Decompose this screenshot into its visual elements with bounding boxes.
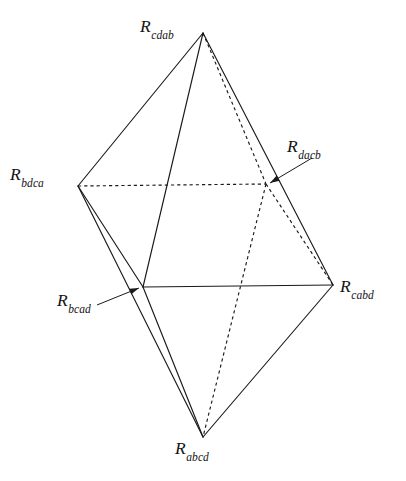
vertex-label-subscript-dacb: dacb bbox=[298, 149, 321, 161]
vertex-label-base-bcad: R bbox=[57, 290, 68, 310]
vertex-label-subscript-cabd: cabd bbox=[351, 289, 374, 301]
edge-bdca-abcd bbox=[78, 186, 203, 437]
vertex-label-cabd: Rcabd bbox=[340, 278, 374, 299]
vertex-label-subscript-bcad: bcad bbox=[68, 303, 91, 315]
edge-bdca-dacb bbox=[78, 184, 266, 186]
edge-cdab-bcad bbox=[143, 33, 203, 287]
edge-group-solid bbox=[78, 33, 333, 437]
vertex-label-bcad: Rbcad bbox=[57, 292, 91, 313]
vertex-label-dacb: Rdacb bbox=[287, 138, 321, 159]
arrow-head-bcad bbox=[129, 288, 139, 294]
edge-dacb-abcd bbox=[203, 184, 266, 437]
vertex-label-subscript-abcd: abcd bbox=[186, 451, 209, 463]
diagram-canvas: RcdabRbdcaRdacbRbcadRcabdRabcd bbox=[0, 0, 406, 481]
edge-bcad-cabd bbox=[143, 285, 333, 287]
edge-group-dashed bbox=[78, 33, 333, 437]
edge-bcad-abcd bbox=[143, 287, 203, 437]
vertex-label-base-cdab: R bbox=[140, 16, 151, 36]
edge-dacb-cabd bbox=[266, 184, 333, 285]
leader-line-group bbox=[97, 158, 312, 305]
edge-cdab-bdca bbox=[78, 33, 203, 186]
vertex-label-bdca: Rbdca bbox=[10, 166, 44, 187]
polyhedron-figure bbox=[0, 0, 406, 481]
vertex-label-cdab: Rcdab bbox=[140, 18, 174, 39]
arrow-head-dacb bbox=[270, 176, 280, 183]
vertex-label-base-cabd: R bbox=[340, 276, 351, 296]
vertex-label-abcd: Rabcd bbox=[175, 440, 209, 461]
vertex-label-subscript-cdab: cdab bbox=[151, 29, 174, 41]
vertex-label-base-dacb: R bbox=[287, 136, 298, 156]
edge-cdab-dacb bbox=[203, 33, 266, 184]
vertex-label-subscript-bdca: bdca bbox=[21, 177, 44, 189]
edge-bdca-bcad bbox=[78, 186, 143, 287]
vertex-label-base-abcd: R bbox=[175, 438, 186, 458]
vertex-label-base-bdca: R bbox=[10, 164, 21, 184]
